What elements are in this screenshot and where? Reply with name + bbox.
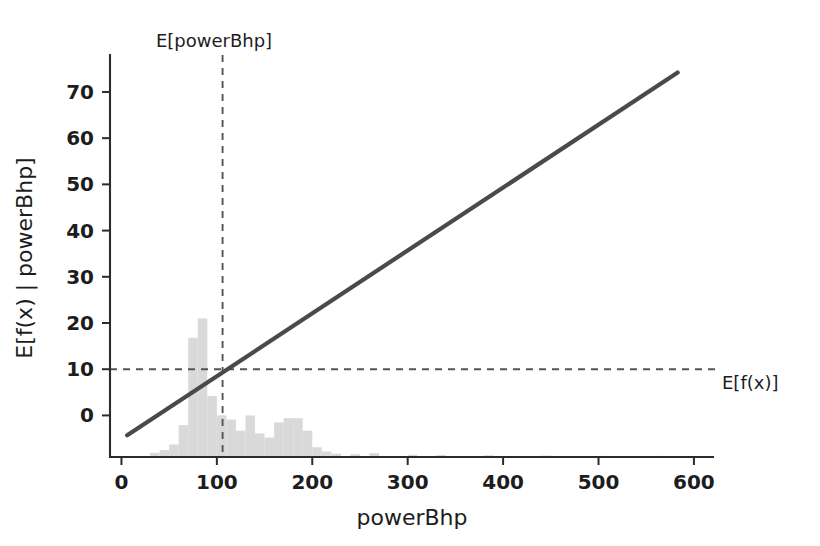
histogram-bar	[169, 445, 179, 457]
x-tick-label: 300	[387, 470, 429, 494]
x-tick-label: 200	[291, 470, 333, 494]
histogram-bar	[265, 438, 275, 457]
chart-figure: 0100200300400500600 010203040506070 powe…	[0, 0, 820, 546]
histogram-bar	[207, 396, 217, 457]
model-line-layer	[127, 73, 678, 436]
histogram-bar	[217, 415, 227, 457]
y-tick-label: 0	[80, 403, 94, 427]
histogram-bar	[188, 338, 198, 457]
x-axis-label: powerBhp	[357, 505, 468, 530]
histogram-layer	[150, 318, 665, 457]
y-axis-ticks: 010203040506070	[66, 80, 110, 427]
histogram-bar	[245, 415, 255, 457]
y-tick-label: 50	[66, 172, 94, 196]
x-tick-label: 400	[482, 470, 524, 494]
histogram-bar	[284, 418, 294, 457]
x-tick-label: 100	[196, 470, 238, 494]
histogram-bar	[303, 431, 313, 457]
y-axis-label: E[f(x) | powerBhp]	[12, 157, 38, 358]
histogram-bar	[179, 425, 189, 457]
x-tick-label: 500	[578, 470, 620, 494]
x-tick-label: 600	[673, 470, 715, 494]
y-tick-label: 20	[66, 311, 94, 335]
annotation-expected-powerbhp: E[powerBhp]	[156, 30, 272, 51]
histogram-bar	[274, 422, 284, 457]
histogram-bar	[255, 433, 265, 457]
annotation-expected-fx: E[f(x)]	[722, 372, 778, 393]
histogram-bar	[312, 447, 322, 457]
y-tick-label: 60	[66, 126, 94, 150]
y-tick-label: 70	[66, 80, 94, 104]
x-tick-label: 0	[114, 470, 128, 494]
histogram-bar	[236, 431, 246, 457]
y-tick-label: 10	[66, 357, 94, 381]
x-axis-ticks: 0100200300400500600	[114, 457, 714, 494]
y-tick-label: 40	[66, 219, 94, 243]
y-tick-label: 30	[66, 265, 94, 289]
expected-value-line	[127, 73, 678, 436]
histogram-bar	[226, 420, 236, 457]
partial-dependence-plot: 0100200300400500600 010203040506070 powe…	[0, 0, 820, 546]
histogram-bar	[293, 418, 303, 457]
